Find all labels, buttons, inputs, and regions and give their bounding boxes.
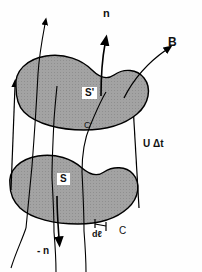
physics-diagram: n B S' C' U Δt S dℓ C - n (0, 0, 202, 272)
field-line-1-tail (11, 228, 26, 268)
label-displacement-u-delta-t: U Δt (143, 139, 164, 149)
label-surface-s-prime: S' (82, 87, 97, 99)
label-curve-c: C (119, 226, 126, 236)
label-normal-n: n (103, 8, 110, 19)
field-line-2-tail (54, 232, 56, 272)
label-field-B: B (168, 36, 177, 48)
label-normal-negative-n: - n (37, 246, 49, 256)
field-line-3-tail (84, 231, 86, 272)
lower-surface-S (10, 155, 138, 224)
label-line-element-dl: dℓ (92, 230, 102, 239)
label-surface-s: S (57, 173, 70, 185)
label-curve-c-prime: C' (84, 121, 92, 130)
